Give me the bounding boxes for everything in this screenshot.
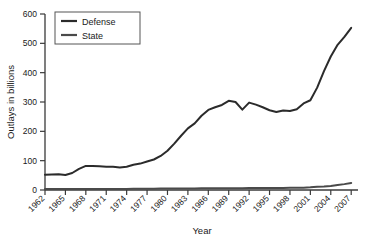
data-series-group — [45, 28, 351, 189]
x-tick-label: 1971 — [87, 193, 108, 214]
x-tick-label: 1977 — [128, 193, 149, 214]
x-tick-label: 1980 — [148, 193, 169, 214]
y-tick-label: 500 — [23, 38, 37, 48]
y-tick-label: 300 — [23, 97, 37, 107]
x-tick-label: 1992 — [230, 193, 251, 214]
x-tick-label: 1968 — [67, 193, 88, 214]
chart-container: 0100200300400500600 19621965196819711974… — [0, 0, 366, 242]
y-tick-label: 0 — [32, 185, 37, 195]
y-tick-label: 600 — [23, 9, 37, 19]
y-tick-label: 400 — [23, 68, 37, 78]
line-chart-svg: 0100200300400500600 19621965196819711974… — [0, 0, 366, 242]
series-line-state — [45, 183, 351, 189]
x-tick-label: 1998 — [271, 193, 292, 214]
y-axis-title: Outlays in billions — [5, 65, 16, 139]
x-axis-tick-group: 1962196519681971197419771980198319861989… — [26, 190, 353, 214]
x-tick-label: 1974 — [108, 193, 129, 214]
x-tick-label: 2004 — [312, 193, 333, 214]
x-tick-label: 1983 — [169, 193, 190, 214]
legend-label-defense: Defense — [82, 17, 116, 27]
y-tick-label: 100 — [23, 156, 37, 166]
x-tick-label: 1995 — [251, 193, 272, 214]
x-tick-label: 2007 — [332, 193, 353, 214]
y-tick-label: 200 — [23, 126, 37, 136]
legend: Defense State — [55, 12, 140, 44]
x-tick-label: 1965 — [46, 193, 67, 214]
x-tick-label: 1986 — [189, 193, 210, 214]
x-axis-title: Year — [192, 225, 211, 236]
y-axis-tick-group: 0100200300400500600 — [23, 9, 45, 195]
series-line-defense — [45, 28, 351, 175]
x-tick-label: 2001 — [291, 193, 312, 214]
legend-label-state: State — [82, 31, 103, 41]
x-tick-label: 1989 — [210, 193, 231, 214]
x-tick-label: 1962 — [26, 193, 47, 214]
